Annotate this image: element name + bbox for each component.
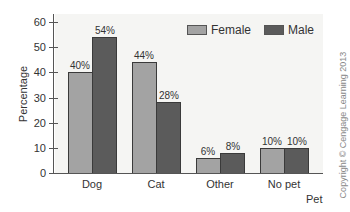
y-axis bbox=[53, 14, 54, 174]
bar-cat-male bbox=[156, 102, 181, 174]
x-category-label: No pet bbox=[254, 178, 314, 190]
y-tick bbox=[49, 47, 58, 48]
y-tick-label: 0 bbox=[28, 168, 46, 179]
y-tick bbox=[49, 98, 58, 99]
y-tick bbox=[49, 22, 58, 23]
y-tick bbox=[49, 72, 58, 73]
copyright-notice: Copyright © Cengage Learning 2013 bbox=[338, 50, 348, 200]
y-tick-label: 50 bbox=[28, 42, 46, 53]
y-tick bbox=[49, 123, 58, 124]
x-axis bbox=[53, 173, 323, 174]
value-label: 8% bbox=[218, 141, 248, 152]
value-label: 28% bbox=[154, 90, 184, 101]
x-axis-title: Pet bbox=[306, 193, 323, 205]
value-label: 44% bbox=[129, 50, 159, 61]
x-category-label: Other bbox=[190, 178, 250, 190]
value-label: 54% bbox=[90, 25, 120, 36]
bar-other-male bbox=[220, 153, 245, 174]
y-tick-label: 20 bbox=[28, 118, 46, 129]
legend-label-male: Male bbox=[288, 23, 314, 37]
x-category-label: Cat bbox=[126, 178, 186, 190]
bar-dog-female bbox=[68, 72, 93, 174]
value-label: 40% bbox=[65, 60, 95, 71]
bar-other-female bbox=[196, 158, 221, 174]
y-tick-label: 30 bbox=[28, 93, 46, 104]
bar-dog-male bbox=[92, 37, 117, 174]
y-tick-label: 10 bbox=[28, 143, 46, 154]
x-category-label: Dog bbox=[62, 178, 122, 190]
y-tick bbox=[49, 148, 58, 149]
legend-swatch-female bbox=[187, 25, 207, 35]
legend-swatch-male bbox=[264, 25, 284, 35]
bar-nopet-male bbox=[284, 148, 309, 174]
legend-label-female: Female bbox=[211, 23, 251, 37]
bar-chart: Percentage 0 10 20 30 40 50 60 40% 54% 4… bbox=[0, 0, 350, 212]
bar-nopet-female bbox=[260, 148, 285, 174]
y-tick-label: 60 bbox=[28, 17, 46, 28]
value-label: 10% bbox=[282, 136, 312, 147]
bar-cat-female bbox=[132, 62, 157, 174]
y-tick-label: 40 bbox=[28, 67, 46, 78]
